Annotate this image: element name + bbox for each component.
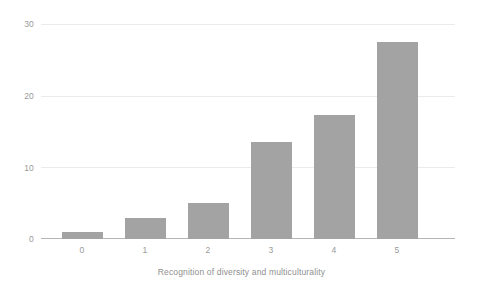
bar-4	[314, 115, 355, 239]
bar-0	[62, 232, 103, 239]
x-axis-tick-label: 0	[62, 246, 102, 255]
x-axis-tick-label: 1	[125, 246, 165, 255]
bar-2	[188, 203, 229, 239]
x-axis-tick-label: 4	[314, 246, 354, 255]
bar-3	[251, 142, 292, 239]
bar-5	[377, 42, 418, 239]
plot-area	[41, 24, 455, 239]
bar-chart: 30 20 10 0 0 1 2 3 4 5 Recognition of di…	[0, 0, 483, 290]
y-axis-tick-label: 10	[4, 164, 34, 173]
x-axis-title: Recognition of diversity and multicultur…	[0, 268, 483, 277]
bar-1	[125, 218, 166, 240]
y-axis-tick-label: 20	[4, 92, 34, 101]
bars-layer	[41, 24, 455, 239]
x-axis-tick-label: 3	[251, 246, 291, 255]
y-axis-tick-label: 0	[4, 235, 34, 244]
x-axis-tick-label: 2	[188, 246, 228, 255]
y-axis-tick-label: 30	[4, 20, 34, 29]
x-axis-tick-label: 5	[377, 246, 417, 255]
